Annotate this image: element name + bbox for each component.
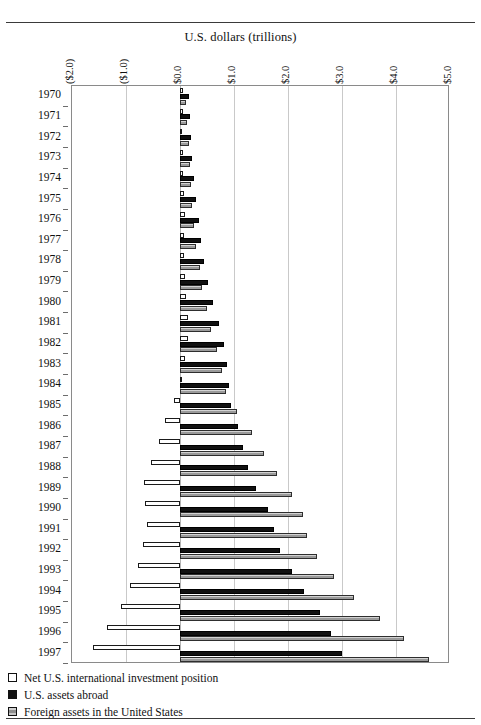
bar-frn (180, 533, 307, 538)
y-tick-label: 1986 (38, 420, 61, 432)
legend-swatch-net (8, 673, 17, 682)
bar-frn (180, 595, 354, 600)
legend-label: Net U.S. international investment positi… (24, 672, 218, 684)
bar-net (180, 191, 184, 196)
y-axis-tick (63, 230, 68, 231)
y-axis-tick (63, 106, 68, 107)
bar-net (180, 88, 183, 93)
y-tick-label: 1981 (38, 316, 61, 328)
bar-frn (180, 492, 292, 497)
bar-usa (180, 114, 190, 119)
y-axis-tick (63, 415, 68, 416)
bar-frn (180, 409, 237, 414)
bar-usa (180, 569, 292, 574)
y-tick-label: 1997 (38, 647, 61, 659)
bar-frn (180, 141, 189, 146)
y-axis-tick (63, 168, 68, 169)
x-axis-tick-labels: ($2.0)($1.0)$0.0$1.0$2.0$3.0$4.0$5.0 (0, 48, 481, 84)
y-tick-label: 1991 (38, 523, 61, 535)
bar-usa (180, 631, 331, 636)
legend-label: U.S. assets abroad (24, 689, 108, 701)
bar-frn (180, 244, 196, 249)
gridline (126, 86, 127, 662)
bar-usa (180, 424, 238, 429)
y-tick-label: 1970 (38, 89, 61, 101)
bar-net (174, 398, 180, 403)
y-axis-tick (63, 436, 68, 437)
y-axis-tick (63, 312, 68, 313)
bar-net (144, 480, 180, 485)
y-tick-label: 1972 (38, 131, 61, 143)
bar-net (180, 233, 184, 238)
y-axis-tick (63, 601, 68, 602)
bar-net (180, 336, 188, 341)
bottom-divider-rule (6, 718, 475, 719)
x-tick-label: ($2.0) (64, 59, 75, 84)
y-axis-tick (63, 457, 68, 458)
bar-frn (180, 554, 317, 559)
y-tick-label: 1995 (38, 605, 61, 617)
bar-usa (180, 362, 227, 367)
bar-usa (180, 548, 280, 553)
bar-frn (180, 368, 222, 373)
bar-usa (180, 176, 194, 181)
bar-usa (180, 94, 189, 99)
bar-usa (180, 321, 219, 326)
y-tick-label: 1982 (38, 337, 61, 349)
y-tick-label: 1996 (38, 626, 61, 638)
bar-net (180, 315, 188, 320)
bar-frn (180, 430, 252, 435)
y-axis-tick-labels: 1970197119721973197419751976197719781979… (0, 85, 69, 663)
y-tick-label: 1978 (38, 254, 61, 266)
y-axis-tick (63, 126, 68, 127)
y-tick-label: 1983 (38, 358, 61, 370)
y-axis-tick (63, 353, 68, 354)
bar-usa (180, 403, 231, 408)
y-axis-tick (63, 498, 68, 499)
y-axis-tick (63, 622, 68, 623)
legend-swatch-frn (8, 707, 17, 716)
y-axis-tick (63, 250, 68, 251)
bar-frn (180, 285, 202, 290)
bar-frn (180, 389, 226, 394)
bar-net (165, 418, 180, 423)
bar-usa (180, 342, 224, 347)
plot-area (71, 85, 449, 663)
bar-usa (180, 135, 191, 140)
bar-frn (180, 327, 211, 332)
x-tick-label: $5.0 (442, 66, 453, 84)
y-tick-label: 1985 (38, 399, 61, 411)
bar-net (130, 583, 180, 588)
y-axis-tick (63, 519, 68, 520)
x-tick-label: $2.0 (280, 66, 291, 84)
bar-usa (180, 156, 192, 161)
bar-usa (180, 300, 213, 305)
y-tick-label: 1974 (38, 172, 61, 184)
legend-label: Foreign assets in the United States (24, 706, 183, 718)
bar-usa (180, 527, 274, 532)
bar-net (93, 645, 180, 650)
y-tick-label: 1987 (38, 440, 61, 452)
y-axis-tick (63, 539, 68, 540)
bar-frn (180, 616, 380, 621)
y-axis-tick (63, 333, 68, 334)
bar-net (145, 501, 180, 506)
bar-net (180, 129, 182, 134)
bar-frn (180, 203, 192, 208)
y-axis-tick (63, 291, 68, 292)
bar-frn (180, 347, 217, 352)
y-axis-tick (63, 663, 68, 664)
bar-net (138, 563, 180, 568)
bar-usa (180, 610, 320, 615)
bar-usa (180, 486, 256, 491)
y-axis-tick (63, 188, 68, 189)
y-tick-label: 1977 (38, 234, 61, 246)
bar-net (147, 522, 180, 527)
y-tick-label: 1989 (38, 482, 61, 494)
bar-frn (180, 636, 404, 641)
x-tick-label: ($1.0) (118, 59, 129, 84)
y-tick-label: 1990 (38, 502, 61, 514)
x-tick-label: $4.0 (388, 66, 399, 84)
chart-figure: ($2.0)($1.0)$0.0$1.0$2.0$3.0$4.0$5.0 197… (0, 0, 481, 725)
y-axis-tick (63, 477, 68, 478)
